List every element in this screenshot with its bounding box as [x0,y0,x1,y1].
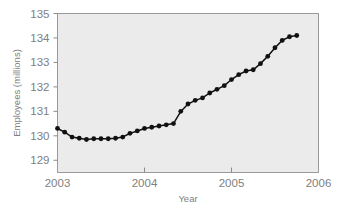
chart-screenshot: 129130131132133134135 2003200420052006 E… [0,0,343,212]
data-point [135,129,140,134]
data-point [120,135,125,140]
data-point [128,131,133,136]
data-point [287,34,292,39]
data-point [186,102,191,107]
data-point [258,61,263,66]
data-point [294,33,299,38]
plot-area-frame [58,14,319,173]
data-point [200,95,205,100]
data-point [84,137,89,142]
data-point [215,87,220,92]
y-tick-label: 131 [30,105,49,117]
y-tick-label: 129 [30,154,49,166]
data-point [229,77,234,82]
data-point [244,69,249,74]
data-point [236,72,241,77]
data-point [142,126,147,131]
data-point [280,38,285,43]
data-point [113,136,118,141]
data-point [171,121,176,126]
y-axis-tick-labels: 129130131132133134135 [30,8,50,167]
data-point [106,136,111,141]
x-tick-label: 2003 [45,177,71,189]
data-point [273,45,278,50]
x-axis-tick-labels: 2003200420052006 [45,177,332,189]
x-tick-label: 2006 [306,177,332,189]
y-axis-title: Employees (millions) [11,49,22,137]
employment-line-chart: 129130131132133134135 2003200420052006 E… [0,0,343,212]
data-point [207,91,212,96]
y-tick-label: 135 [30,8,49,20]
data-point [70,135,75,140]
data-point [178,109,183,114]
x-tick-label: 2004 [132,177,158,189]
data-point [265,54,270,59]
data-point [164,122,169,127]
y-tick-label: 130 [30,130,49,142]
data-point [193,98,198,103]
y-tick-label: 134 [30,32,50,44]
data-point [62,130,67,135]
data-point [157,124,162,129]
y-tick-label: 132 [30,81,49,93]
x-tick-label: 2005 [219,177,245,189]
data-point [251,67,256,72]
data-point [77,136,82,141]
data-point [99,136,104,141]
data-point [149,125,154,130]
data-point [55,126,60,131]
data-point [91,136,96,141]
y-tick-label: 133 [30,56,49,68]
data-point [222,83,227,88]
x-axis-title: Year [178,193,197,204]
y-axis-ticks [54,14,58,161]
